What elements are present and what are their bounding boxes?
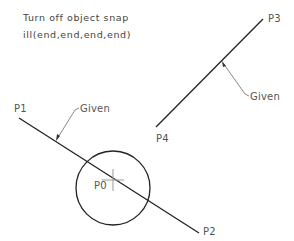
label-p1: P1: [14, 104, 27, 114]
line-p4-p3: [156, 19, 263, 127]
label-p0: P0: [94, 181, 107, 191]
label-p2: P2: [203, 227, 216, 237]
leader-given-2: [222, 61, 249, 96]
leader-given-1: [56, 108, 79, 141]
instruction-line-1: Turn off object snap: [23, 13, 129, 23]
line-p1-p2: [19, 118, 199, 233]
label-p3: P3: [268, 14, 281, 24]
label-given-1: Given: [80, 104, 110, 114]
label-p4: P4: [156, 134, 169, 144]
label-given-2: Given: [250, 92, 280, 102]
instruction-line-2: ill(end,end,end,end): [23, 30, 131, 40]
